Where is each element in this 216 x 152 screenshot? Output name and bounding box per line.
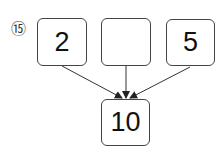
problem-number: ⑮ xyxy=(11,17,26,38)
box-result: 10 xyxy=(101,99,150,146)
box-top-left: 2 xyxy=(37,18,87,66)
box-top-right: 5 xyxy=(166,19,215,66)
box-top-middle-blank[interactable] xyxy=(101,18,151,66)
